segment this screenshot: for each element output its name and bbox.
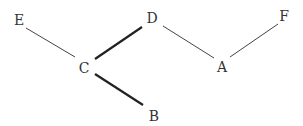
node-d: D [146, 11, 157, 25]
edge-c-b [95, 74, 143, 105]
edge-a-f [230, 24, 278, 57]
node-f: F [279, 9, 289, 23]
edge-d-a [163, 26, 214, 58]
node-c: C [79, 61, 90, 75]
tree-diagram: E D F C A B [0, 0, 303, 126]
edge-c-d [95, 27, 142, 59]
node-a: A [217, 60, 227, 74]
node-b: B [149, 109, 159, 123]
edge-e-c [26, 28, 75, 57]
node-e: E [14, 13, 24, 27]
